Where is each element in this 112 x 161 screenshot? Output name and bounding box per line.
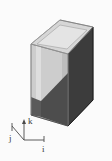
axis-i-label: i xyxy=(42,144,45,154)
axis-j-line xyxy=(12,126,24,140)
axis-k-label: k xyxy=(28,116,33,126)
hexagonal-prism-solid xyxy=(31,20,93,126)
hexagonal-prism-figure: k i j xyxy=(0,0,112,161)
coordinate-triad: k i j xyxy=(8,116,46,154)
axis-j-label: j xyxy=(8,133,12,143)
axis-k-arrowhead xyxy=(22,119,26,124)
figure-root: k i j xyxy=(0,0,112,161)
